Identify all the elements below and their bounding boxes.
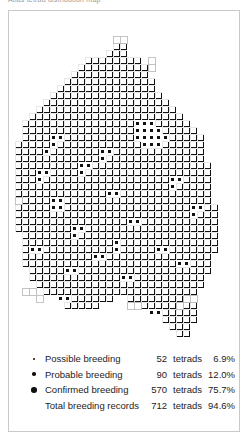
map-legend: Possible breeding52tetrads6.9%Probable b… <box>9 351 239 413</box>
legend-label: Confirmed breeding <box>45 382 128 398</box>
legend-unit: tetrads <box>173 382 202 398</box>
legend-unit: tetrads <box>173 351 202 367</box>
legend-percent: 94.6% <box>205 398 235 414</box>
legend-count: 52 <box>137 351 167 367</box>
legend-row: Probable breeding90tetrads12.0% <box>9 367 239 383</box>
legend-unit: tetrads <box>173 398 202 414</box>
legend-count: 570 <box>137 382 167 398</box>
legend-row: Total breeding records712tetrads94.6% <box>9 398 239 414</box>
legend-unit: tetrads <box>173 367 202 383</box>
figure-frame: Possible breeding52tetrads6.9%Probable b… <box>8 10 240 432</box>
legend-percent: 12.0% <box>205 367 235 383</box>
legend-marker-medium-dot-icon <box>27 367 41 383</box>
figure-caption: Atlas tetrad distribution map <box>8 0 240 6</box>
legend-row: Possible breeding52tetrads6.9% <box>9 351 239 367</box>
legend-label: Possible breeding <box>45 351 121 367</box>
legend-count: 90 <box>137 367 167 383</box>
tetrad-distribution-map <box>9 11 239 341</box>
legend-count: 712 <box>137 398 167 414</box>
legend-label: Total breeding records <box>45 398 139 414</box>
legend-percent: 6.9% <box>205 351 235 367</box>
legend-row: Confirmed breeding570tetrads75.7% <box>9 382 239 398</box>
legend-label: Probable breeding <box>45 367 123 383</box>
legend-percent: 75.7% <box>205 382 235 398</box>
legend-marker-large-dot-icon <box>27 382 41 398</box>
legend-marker-small-dot-icon <box>27 351 41 367</box>
